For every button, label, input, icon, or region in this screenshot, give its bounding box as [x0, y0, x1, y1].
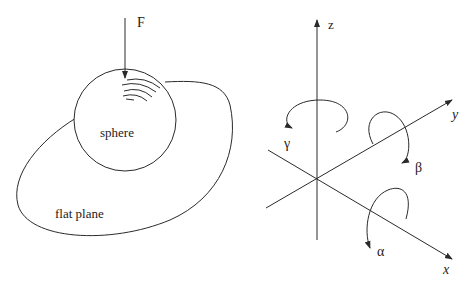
- flat-plane-label: flat plane: [55, 206, 104, 222]
- alpha-label: α: [377, 244, 384, 260]
- z-axis-label: z: [328, 17, 334, 33]
- beta-label: β: [415, 160, 422, 176]
- gamma-label: γ: [284, 136, 290, 152]
- alpha-rotation-arrow: [367, 188, 408, 248]
- y-axis-label: y: [452, 107, 458, 123]
- beta-rotation-arrow: [369, 112, 409, 163]
- y-axis: [266, 100, 452, 208]
- diagram-canvas: [0, 0, 471, 290]
- x-axis-label: x: [443, 262, 449, 278]
- force-label: F: [137, 15, 145, 31]
- sphere-label: sphere: [100, 125, 134, 141]
- x-axis: [268, 150, 452, 259]
